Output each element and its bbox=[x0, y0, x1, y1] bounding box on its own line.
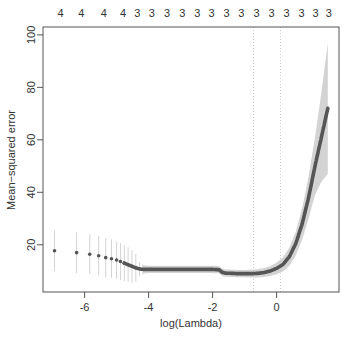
data-point bbox=[75, 251, 79, 255]
top-tick-label: 3 bbox=[209, 7, 215, 19]
x-tick-label: -6 bbox=[80, 301, 90, 313]
top-tick-label: 4 bbox=[58, 7, 64, 19]
y-tick-label: 60 bbox=[25, 134, 37, 146]
y-axis-label: Mean−squared error bbox=[5, 110, 17, 210]
top-tick-label: 3 bbox=[179, 7, 185, 19]
top-tick-label: 3 bbox=[238, 7, 244, 19]
x-tick-label: 0 bbox=[274, 301, 280, 313]
top-tick-label: 4 bbox=[78, 7, 84, 19]
data-point bbox=[115, 258, 119, 262]
y-tick-label: 40 bbox=[25, 186, 37, 198]
data-point bbox=[88, 252, 92, 256]
top-tick-label: 3 bbox=[268, 7, 274, 19]
top-tick-label: 3 bbox=[326, 7, 332, 19]
x-tick-label: -2 bbox=[208, 301, 218, 313]
top-tick-label: 3 bbox=[164, 7, 170, 19]
data-point bbox=[110, 257, 114, 261]
chart-svg: -6-4-20 20406080100 444433333333333333 l… bbox=[0, 0, 352, 339]
data-point bbox=[53, 249, 57, 253]
data-points bbox=[53, 108, 328, 273]
x-axis: -6-4-20 bbox=[80, 292, 280, 313]
top-tick-label: 3 bbox=[194, 7, 200, 19]
top-tick-label: 3 bbox=[149, 7, 155, 19]
error-bars bbox=[55, 43, 328, 283]
data-point bbox=[104, 256, 108, 260]
top-axis-nonzero-counts: 444433333333333333 bbox=[58, 7, 332, 19]
cv-error-chart: -6-4-20 20406080100 444433333333333333 l… bbox=[0, 0, 352, 339]
data-point bbox=[119, 260, 123, 264]
y-tick-label: 100 bbox=[25, 26, 37, 44]
data-point bbox=[97, 254, 101, 258]
top-tick-label: 3 bbox=[134, 7, 140, 19]
y-axis: 20406080100 bbox=[25, 26, 43, 251]
x-tick-label: -4 bbox=[144, 301, 154, 313]
top-tick-label: 3 bbox=[283, 7, 289, 19]
top-tick-label: 4 bbox=[101, 7, 107, 19]
top-tick-label: 3 bbox=[253, 7, 259, 19]
top-tick-label: 3 bbox=[298, 7, 304, 19]
lambda-vlines bbox=[254, 27, 281, 292]
y-tick-label: 80 bbox=[25, 81, 37, 93]
y-tick-label: 20 bbox=[25, 239, 37, 251]
top-tick-label: 3 bbox=[224, 7, 230, 19]
top-tick-label: 4 bbox=[120, 7, 126, 19]
x-axis-label: log(Lambda) bbox=[160, 317, 222, 329]
top-tick-label: 3 bbox=[313, 7, 319, 19]
error-band bbox=[142, 43, 328, 278]
